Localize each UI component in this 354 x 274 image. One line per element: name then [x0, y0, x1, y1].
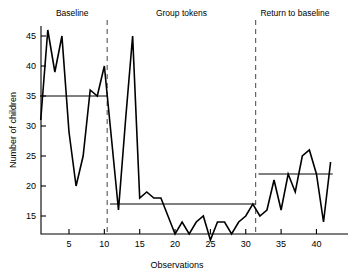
line-chart: 510152025303540 15202530354045 BaselineG…: [0, 0, 354, 274]
x-axis-title: Observations: [150, 260, 204, 270]
x-tick-label: 30: [241, 239, 251, 249]
y-tick-label: 40: [26, 61, 36, 71]
y-tick-label: 35: [26, 91, 36, 101]
x-tick-label: 10: [99, 239, 109, 249]
plot-background: [0, 0, 354, 274]
y-tick-label: 25: [26, 151, 36, 161]
phase-label: Baseline: [56, 8, 89, 18]
x-tick-label: 25: [205, 239, 215, 249]
x-tick-label: 40: [311, 239, 321, 249]
x-tick-label: 5: [66, 239, 71, 249]
y-tick-label: 15: [26, 211, 36, 221]
y-tick-label: 20: [26, 181, 36, 191]
y-tick-label: 45: [26, 31, 36, 41]
x-tick-label: 20: [170, 239, 180, 249]
y-axis-title: Number of children: [8, 92, 18, 168]
chart-figure: 510152025303540 15202530354045 BaselineG…: [0, 0, 354, 274]
x-tick-label: 35: [276, 239, 286, 249]
x-tick-label: 15: [135, 239, 145, 249]
phase-label: Group tokens: [156, 8, 207, 18]
phase-label: Return to baseline: [260, 8, 329, 18]
y-tick-label: 30: [26, 121, 36, 131]
